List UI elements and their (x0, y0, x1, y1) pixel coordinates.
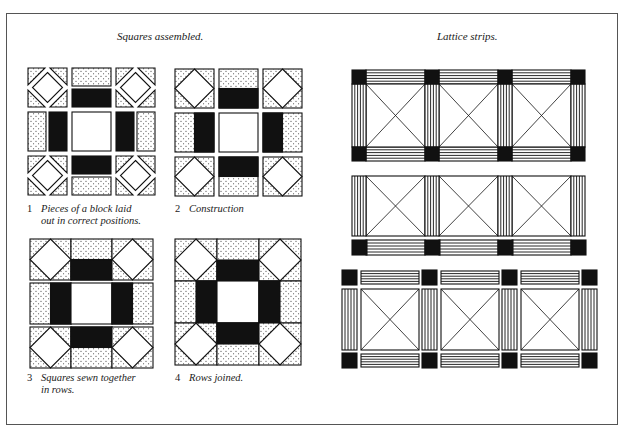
lattice-strip-3 (342, 270, 597, 368)
vertical-lattice-strip (422, 289, 437, 350)
black-bar (196, 281, 217, 323)
quilt-block-panel (441, 289, 499, 350)
black-bar (219, 157, 258, 177)
split-square (71, 327, 112, 368)
corner-square-diamond (263, 157, 302, 196)
black-bar (71, 260, 112, 281)
center-white-square (71, 283, 112, 324)
corner-post-square (502, 353, 517, 368)
horizontal-lattice-strip (441, 271, 499, 284)
corner-post-square (498, 70, 512, 84)
center-white-square (72, 112, 111, 151)
corner-post-square (425, 240, 440, 255)
quilt-block-panel (366, 176, 425, 236)
corner-square-diamond (30, 239, 71, 280)
vertical-lattice-strip (342, 289, 357, 350)
corner-post-square (571, 147, 585, 161)
vertical-lattice-strip (425, 84, 439, 147)
corner-square-diamond (175, 69, 214, 108)
horizontal-lattice-strip (366, 147, 425, 161)
corner-square-diamond (259, 323, 301, 365)
caption-text: Rows joined. (189, 372, 243, 384)
black-bar (51, 283, 72, 324)
black-bar (217, 323, 259, 344)
vertical-lattice-strip (498, 84, 512, 147)
center-white-square (217, 281, 259, 323)
white-diamond (33, 161, 63, 191)
quilt-block-panel (521, 289, 579, 350)
figure-1-pieces-laid-out (28, 68, 155, 195)
vertical-lattice-strip (571, 84, 585, 147)
split-square (219, 157, 258, 196)
corner-post-square (498, 240, 513, 255)
horizontal-lattice-strip (521, 354, 579, 367)
quilt-block-panel (439, 84, 498, 147)
corner-post-square (582, 353, 597, 368)
caption-number: 4 (175, 372, 180, 384)
black-bar (219, 89, 258, 109)
corner-post-square (342, 353, 357, 368)
black-strip (49, 112, 67, 151)
corner-post-square (422, 353, 437, 368)
split-square (217, 323, 259, 365)
corner-square-diamond (30, 327, 71, 368)
corner-square-diamond (175, 157, 214, 196)
caption-4: 4 Rows joined. (175, 372, 305, 386)
black-bar (263, 113, 283, 152)
black-bar (112, 283, 133, 324)
dotted-strip (137, 112, 155, 151)
horizontal-lattice-strip (361, 271, 419, 284)
corner-post-square (582, 270, 597, 285)
horizontal-lattice-strip (439, 70, 498, 84)
corner-post-square (571, 240, 586, 255)
figure-3-rows-sewn (30, 239, 153, 368)
horizontal-lattice-strip (441, 354, 499, 367)
vertical-lattice-strip (502, 289, 517, 350)
figure-4-rows-joined (175, 239, 301, 365)
split-square (217, 239, 259, 281)
vertical-lattice-strip (352, 84, 366, 147)
split-square (112, 283, 153, 324)
split-square (175, 281, 217, 323)
corner-post-square (422, 270, 437, 285)
corner-post-square (425, 70, 439, 84)
vertical-lattice-strip (352, 176, 366, 236)
corner-post-square (425, 147, 439, 161)
horizontal-lattice-strip (439, 240, 498, 255)
black-bar (259, 281, 280, 323)
corner-square-diamond (175, 323, 217, 365)
black-strip (72, 156, 111, 174)
black-strip (116, 112, 134, 151)
lattice-strip-figures (342, 70, 597, 368)
figure-2-construction (175, 69, 302, 196)
caption-number: 3 (27, 372, 32, 384)
caption-text: Construction (189, 203, 244, 215)
corner-post-square (498, 147, 512, 161)
quilt-block-panel (361, 289, 419, 350)
split-square (263, 113, 302, 152)
horizontal-lattice-strip (512, 240, 571, 255)
split-square (175, 113, 214, 152)
vertical-lattice-strip (425, 176, 439, 236)
corner-square-diamond (112, 327, 153, 368)
quilt-block-panel (512, 176, 571, 236)
corner-post-square (352, 147, 366, 161)
horizontal-lattice-strip (512, 147, 571, 161)
split-square (71, 239, 112, 280)
dotted-strip (28, 112, 46, 151)
split-square (30, 283, 71, 324)
horizontal-lattice-strip (366, 70, 425, 84)
corner-post-square (352, 240, 367, 255)
center-white-square (219, 113, 258, 152)
corner-post-square (342, 270, 357, 285)
lattice-strip-2 (352, 176, 586, 255)
corner-square-diamond (259, 239, 301, 281)
horizontal-lattice-strip (439, 147, 498, 161)
corner-square-diamond (112, 239, 153, 280)
black-bar (195, 113, 215, 152)
corner-post-square (571, 70, 585, 84)
caption-text: Pieces of a block laid out in correct po… (41, 203, 141, 227)
black-strip (72, 89, 111, 107)
white-diamond (33, 73, 63, 103)
split-square (219, 69, 258, 108)
